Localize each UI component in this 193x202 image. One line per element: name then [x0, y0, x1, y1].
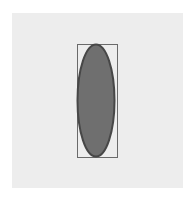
diagram-svg	[0, 0, 193, 202]
ellipse-shape[interactable]	[78, 45, 115, 157]
diagram-stage	[0, 0, 193, 202]
